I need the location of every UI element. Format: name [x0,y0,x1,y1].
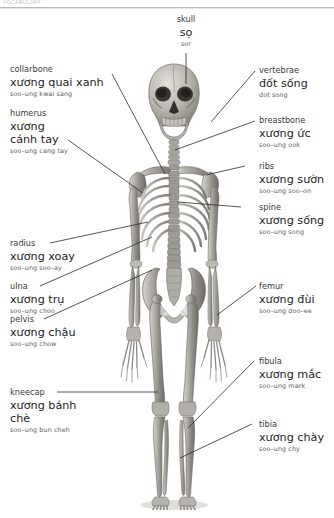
label-spine-en: spine [259,202,324,213]
label-femur: femur xương đùi soo–ung doo–ee [259,281,315,315]
human-skeleton-figure [112,62,236,510]
label-collarbone-pr: soo–ung kwai sang [10,90,104,98]
label-humerus-en: humerus [10,108,72,119]
label-ribs: ribs xương sườn soo–ung soo–on [259,161,324,195]
label-vertebrae-en: vertebrae [259,65,308,76]
label-spine-pr: soo–ung song [259,228,324,236]
label-femur-vi: xương đùi [259,293,315,306]
label-collarbone-vi: xương quai xanh [10,76,104,89]
spine-vertebral-column [167,165,181,268]
label-ulna-vi: xương trụ [10,293,64,306]
label-kneecap-pr: soo–ung bun cheh [10,426,82,434]
label-fibula: fibula xương mắc soo–ung mark [259,356,321,390]
label-radius-pr: soo–ung soo–ay [10,264,75,272]
label-radius-en: radius [10,238,75,249]
label-breastbone-en: breastbone [259,115,311,126]
hand-bones [121,327,227,382]
header-rule-shadow [0,8,334,9]
knee-joint [152,402,196,416]
label-skull: skull sọ sor [156,14,216,48]
label-kneecap: kneecap xương bánh chè soo–ung bun cheh [10,387,82,434]
label-ribs-pr: soo–ung soo–on [259,187,324,195]
cervical-vertebrae [168,140,180,165]
label-pelvis-vi: xương chậu [10,326,76,339]
page-header-fragment: VOCABULARY [3,0,41,5]
femur-thigh-bone [150,295,199,410]
skeleton-vocabulary-page: VOCABULARY [0,0,334,518]
label-ribs-en: ribs [259,161,324,172]
label-femur-pr: soo–ung doo–ee [259,307,315,315]
label-breastbone-pr: soo–ung ook [259,141,311,149]
tibia-shinbone [153,417,194,497]
label-pelvis-pr: soo–ung chow [10,340,76,348]
skull-bone [149,64,199,140]
label-kneecap-vi: xương bánh chè [10,399,82,425]
label-fibula-vi: xương mắc [259,368,321,381]
label-kneecap-en: kneecap [10,387,82,398]
label-pelvis: pelvis xương chậu soo–ung chow [10,314,76,348]
label-vertebrae-vi: đốt sống [259,77,308,90]
label-ulna-en: ulna [10,281,64,292]
label-breastbone-vi: xương ức [259,127,311,140]
label-pelvis-en: pelvis [10,314,76,325]
label-spine-vi: xương sống [259,214,324,227]
label-skull-pr: sor [156,40,216,48]
label-spine: spine xương sống soo–ung song [259,202,324,236]
label-ribs-vi: xương sườn [259,173,324,186]
label-collarbone: collarbone xương quai xanh soo–ung kwai … [10,64,104,98]
label-skull-vi: sọ [156,26,216,39]
label-tibia-en: tibia [259,419,324,430]
label-tibia-pr: soo–ung chy [259,445,324,453]
label-vertebrae-pr: dot song [259,91,308,99]
label-fibula-en: fibula [259,356,321,367]
label-breastbone: breastbone xương ức soo–ung ook [259,115,311,149]
label-humerus-pr: soo–ung cang tay [10,147,72,155]
label-humerus-vi: xương cánh tay [10,120,72,146]
label-radius-vi: xương xoay [10,250,75,263]
label-femur-en: femur [259,281,315,292]
label-tibia-vi: xương chày [259,431,324,444]
label-collarbone-en: collarbone [10,64,104,75]
label-ulna: ulna xương trụ soo–ung choo [10,281,64,315]
label-skull-en: skull [156,14,216,25]
label-humerus: humerus xương cánh tay soo–ung cang tay [10,108,72,155]
label-radius: radius xương xoay soo–ung soo–ay [10,238,75,272]
label-vertebrae: vertebrae đốt sống dot song [259,65,308,99]
label-fibula-pr: soo–ung mark [259,382,321,390]
label-tibia: tibia xương chày soo–ung chy [259,419,324,453]
fibula-calf-bone [163,420,185,496]
